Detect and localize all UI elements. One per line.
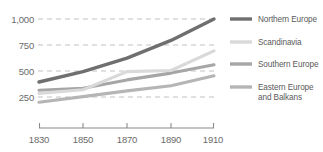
y-tick-label-250: 250 (19, 92, 34, 103)
legend-label-northern-europe: Northern Europe (258, 15, 318, 24)
y-tick-label-500: 500 (19, 66, 34, 77)
legend-label-eastern-europe-and-balkans: Eastern Europe (258, 83, 314, 92)
x-axis-tick-labels: 1830 1850 1870 1890 1910 (29, 134, 223, 145)
y-tick-label-1000: 1,000 (11, 14, 34, 25)
chart-container: 1,000 750 500 250 1830 1850 1870 1890 19… (0, 0, 323, 152)
line-chart: 1,000 750 500 250 1830 1850 1870 1890 19… (0, 0, 323, 152)
x-tick-label-1910: 1910 (203, 134, 223, 145)
legend-item-northern-europe[interactable]: Northern Europe (230, 15, 318, 24)
x-tick-label-1830: 1830 (29, 134, 49, 145)
legend: Northern Europe Scandinavia Southern Eur… (230, 15, 319, 102)
y-tick-label-750: 750 (19, 40, 34, 51)
x-tick-label-1890: 1890 (161, 134, 181, 145)
x-axis (39, 123, 214, 128)
legend-label-scandinavia: Scandinavia (258, 38, 302, 47)
legend-item-southern-europe[interactable]: Southern Europe (230, 60, 319, 69)
data-series (39, 19, 214, 102)
y-axis-tick-labels: 1,000 750 500 250 (11, 14, 34, 103)
x-tick-label-1870: 1870 (117, 134, 137, 145)
legend-item-scandinavia[interactable]: Scandinavia (230, 38, 302, 47)
series-line-southern-europe (39, 65, 214, 91)
legend-label-eastern-europe-and-balkans-line2: and Balkans (258, 93, 302, 102)
legend-item-eastern-europe-and-balkans[interactable]: Eastern Europe and Balkans (230, 83, 314, 102)
legend-label-southern-europe: Southern Europe (258, 60, 319, 69)
x-tick-label-1850: 1850 (73, 134, 93, 145)
